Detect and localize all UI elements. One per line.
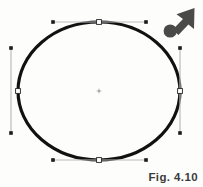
left-anchor-point[interactable] — [16, 89, 21, 94]
top-anchor-point[interactable] — [97, 20, 102, 25]
bottom-anchor-point[interactable] — [97, 158, 102, 163]
right-handle-end-dot[interactable] — [178, 131, 182, 135]
figure-caption: Fig. 4.10 — [148, 172, 198, 184]
bottom-handle-start-dot[interactable] — [51, 158, 55, 162]
arrow-cursor-icon[interactable] — [164, 8, 195, 38]
right-anchor-point[interactable] — [178, 89, 183, 94]
top-handle-end-dot[interactable] — [144, 20, 148, 24]
top-handle-start-dot[interactable] — [51, 20, 55, 24]
center-point-marker — [97, 89, 102, 94]
figure-illustration: Fig. 4.10 — [0, 0, 203, 187]
right-handle-start-dot[interactable] — [178, 46, 182, 50]
left-handle-start-dot[interactable] — [9, 46, 13, 50]
bottom-handle-end-dot[interactable] — [144, 158, 148, 162]
vector-editor-canvas[interactable] — [0, 0, 203, 187]
left-handle-end-dot[interactable] — [9, 131, 13, 135]
